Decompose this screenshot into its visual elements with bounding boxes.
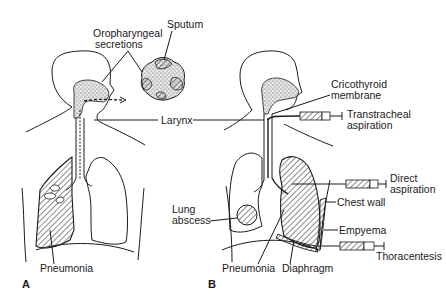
label-direct-aspiration: aspiration [390,183,436,195]
lung-right-a [86,157,128,244]
oropharyngeal-region-b [262,78,299,114]
thoracentesis-syringe-icon [340,242,384,250]
label-membrane: membrane [331,89,381,101]
label-abscess: abscess [172,214,211,226]
label-transtracheal-aspiration: aspiration [347,119,393,131]
pneumonia-lung-a [36,157,74,248]
label-pneumonia-b: Pneumonia [222,262,275,274]
trachea-a [76,118,84,178]
panel-a [22,51,185,262]
label-secretions: secretions [95,38,143,50]
label-pneumonia-a: Pneumonia [40,262,93,274]
transtracheal-catheter [268,116,300,120]
oropharyngeal-region-a [74,80,109,118]
shoulder-a-left [26,107,72,132]
label-sputum: Sputum [167,18,203,30]
pneumonia-lung-b [280,157,320,248]
panel-label-b: B [208,278,216,290]
shoulder-b-right [284,124,333,146]
panel-label-a: A [22,278,30,290]
label-diaphragm: Diaphragm [282,262,334,274]
label-thoracentesis: Thoracentesis [376,250,442,262]
lung-abscess-leader [210,218,237,221]
diagram-canvas: Oropharyngeal secretions Sputum Larynx P… [0,0,446,301]
lung-abscess-icon [237,205,257,225]
bronchus-a-right [84,176,92,186]
label-larynx: Larynx [161,114,193,126]
sputum-icon [141,58,184,101]
oropharyngeal-leaders [102,51,142,82]
label-empyema: Empyema [339,224,386,236]
transtracheal-syringe-icon [300,112,342,120]
sputum-leader [164,31,172,60]
torso-right-a [138,188,144,260]
direct-aspiration-syringe-icon [346,180,386,188]
label-chest-wall: Chest wall [337,196,385,208]
torso-left-a [22,188,26,262]
